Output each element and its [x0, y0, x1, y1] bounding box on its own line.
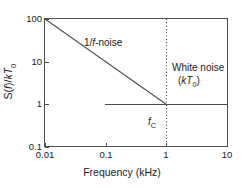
- y-tick-mark: [45, 19, 49, 20]
- y-tick-mark: [45, 62, 49, 63]
- y-tick-label: 10: [31, 57, 42, 67]
- slope-label-suffix: -noise: [95, 37, 122, 48]
- x-tick-mark: [227, 143, 228, 147]
- x-tick-label: 10: [222, 150, 233, 160]
- y-axis-title-k: k: [2, 74, 14, 79]
- x-tick-label: 1: [163, 150, 168, 160]
- y-axis-title: S(f)/kT0: [2, 32, 17, 132]
- y-axis-title-s: S(: [2, 89, 14, 100]
- one-over-f-noise-label: 1/f-noise: [84, 37, 122, 49]
- x-tick-label: 0.1: [99, 150, 112, 160]
- fc-label-sub: C: [151, 121, 156, 130]
- white-noise-label: White noise: [172, 62, 224, 74]
- y-axis-title-slash: )/: [2, 80, 14, 86]
- white-noise-paren-close: ): [196, 75, 199, 86]
- y-tick-label: 0.1: [29, 142, 42, 152]
- y-axis-title-sub: 0: [9, 64, 18, 68]
- x-axis-title: Frequency (kHz): [0, 166, 244, 178]
- y-tick-label: 100: [26, 14, 42, 24]
- y-tick-label: 1: [37, 99, 42, 109]
- y-axis-title-T: T: [2, 68, 14, 74]
- corner-frequency-label: fC: [148, 116, 156, 132]
- noise-spectrum-chart: 0.01 0.1 1 10 100 10 1 0.1 Frequency (kH…: [0, 0, 244, 189]
- x-tick-mark: [106, 143, 107, 147]
- plot-area: [44, 18, 228, 147]
- y-tick-mark: [45, 147, 49, 148]
- y-axis-title-f: f: [2, 86, 14, 89]
- x-tick-mark: [166, 143, 167, 147]
- white-noise-sublabel: (kT0): [178, 75, 200, 91]
- y-tick-mark: [45, 104, 49, 105]
